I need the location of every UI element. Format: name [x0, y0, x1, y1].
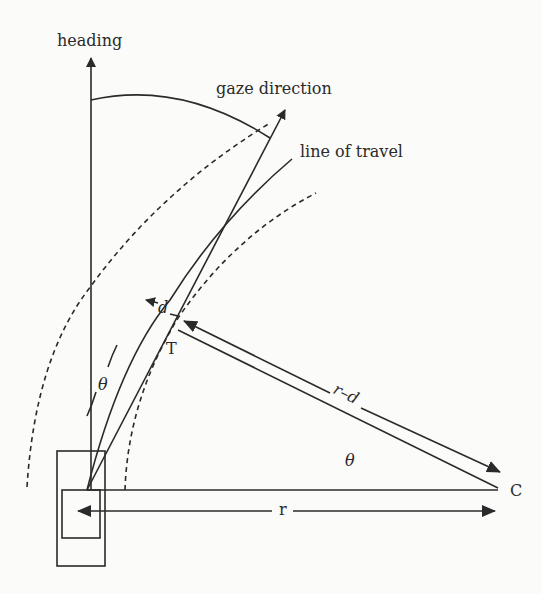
label-center: C: [510, 483, 522, 499]
label-line-of-travel: line of travel: [300, 144, 403, 160]
driver-rectangle: [62, 490, 100, 538]
label-theta-near: θ: [98, 377, 108, 393]
tangent-to-center-line: [178, 330, 498, 488]
label-d: d: [158, 300, 168, 316]
lane-edge-right: [125, 193, 316, 490]
label-tangent-point: T: [166, 341, 177, 357]
diagram-canvas: heading gaze direction line of travel d …: [0, 0, 542, 594]
heading-angle-arc: [91, 95, 270, 138]
theta-arc-near-upper: [108, 345, 117, 367]
lane-edge-left: [27, 123, 270, 487]
label-r: r: [279, 502, 287, 518]
label-heading: heading: [57, 33, 122, 49]
label-gaze-direction: gaze direction: [216, 81, 332, 97]
gaze-direction-arrow: [87, 110, 285, 490]
label-theta-center: θ: [345, 453, 355, 469]
